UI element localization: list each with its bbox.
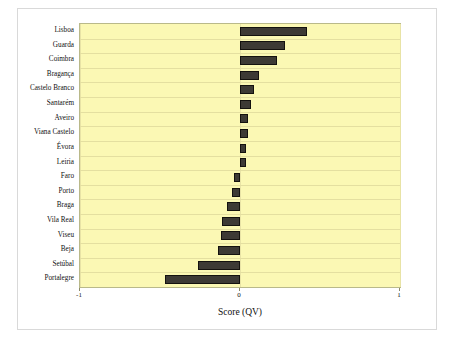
category-label: Santarém: [47, 96, 74, 111]
bar: [221, 231, 240, 240]
x-tick-label: -1: [76, 291, 82, 299]
gridline-y: [80, 243, 400, 244]
gridline-y: [80, 214, 400, 215]
bar: [240, 27, 307, 36]
gridline-y: [80, 141, 400, 142]
category-label: Viseu: [58, 228, 74, 243]
x-axis-title: Score (QV): [79, 307, 401, 317]
category-label: Castelo Branco: [30, 81, 74, 96]
bar: [240, 144, 246, 153]
category-label: Guarda: [53, 38, 74, 53]
bar: [240, 71, 259, 80]
category-label: Viana Castelo: [34, 125, 74, 140]
category-label: Portalegre: [44, 271, 74, 286]
chart-frame: LisboaGuardaCoimbraBragançaCastelo Branc…: [17, 8, 437, 330]
bar: [232, 188, 240, 197]
bar: [227, 202, 240, 211]
category-label: Beja: [61, 242, 74, 257]
category-label: Coimbra: [49, 52, 74, 67]
bar: [234, 173, 240, 182]
category-label: Évora: [57, 140, 74, 155]
category-label: Bragança: [47, 67, 74, 82]
bar: [222, 217, 240, 226]
gridline-y: [80, 126, 400, 127]
gridline-y: [80, 53, 400, 54]
category-label: Aveiro: [55, 111, 74, 126]
chart-plot-wrapper: LisboaGuardaCoimbraBragançaCastelo Branc…: [18, 9, 438, 331]
category-label: Setúbal: [52, 257, 74, 272]
gridline-y: [80, 82, 400, 83]
category-label: Leiria: [57, 155, 74, 170]
gridline-y: [80, 272, 400, 273]
x-tick-label: 1: [397, 291, 401, 299]
bar: [240, 100, 251, 109]
category-label: Faro: [61, 169, 74, 184]
gridline-y: [80, 170, 400, 171]
gridline-y: [80, 68, 400, 69]
gridline-y: [80, 258, 400, 259]
x-tick-label: 0: [237, 291, 241, 299]
category-label: Lisboa: [54, 23, 74, 38]
bar: [240, 114, 248, 123]
gridline-y: [80, 39, 400, 40]
gridline-x-2: [400, 24, 401, 287]
bar: [218, 246, 240, 255]
value-axis: -101: [79, 288, 401, 304]
bar: [165, 275, 240, 284]
gridline-y: [80, 97, 400, 98]
category-label: Vila Real: [47, 213, 74, 228]
bar: [240, 85, 254, 94]
bar: [240, 158, 246, 167]
category-label: Porto: [58, 184, 74, 199]
category-label: Braga: [57, 198, 74, 213]
plot-area: [79, 23, 401, 288]
gridline-y: [80, 112, 400, 113]
gridline-y: [80, 229, 400, 230]
bar: [198, 261, 240, 270]
category-axis-labels: LisboaGuardaCoimbraBragançaCastelo Branc…: [18, 23, 78, 288]
bar: [240, 56, 277, 65]
gridline-y: [80, 185, 400, 186]
bar: [240, 41, 285, 50]
bar: [240, 129, 248, 138]
gridline-y: [80, 199, 400, 200]
gridline-y: [80, 156, 400, 157]
